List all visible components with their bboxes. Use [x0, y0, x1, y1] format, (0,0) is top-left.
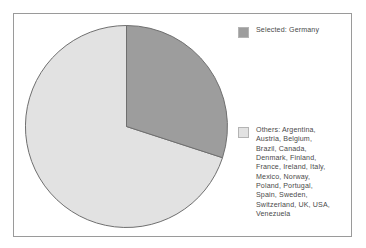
legend: Selected: Germany Others: Argentina, Aus…: [237, 14, 353, 236]
legend-swatch-selected-icon: [238, 27, 249, 38]
legend-label-selected: Selected: Germany: [256, 26, 352, 35]
pie-chart-panel: Selected: Germany Others: Argentina, Aus…: [13, 13, 352, 237]
pie-chart-svg: [25, 25, 228, 228]
pie-chart-plot-area: [25, 25, 228, 228]
legend-swatch-others-icon: [238, 127, 249, 138]
legend-label-others: Others: Argentina, Austria, Belgium, Bra…: [256, 126, 352, 219]
